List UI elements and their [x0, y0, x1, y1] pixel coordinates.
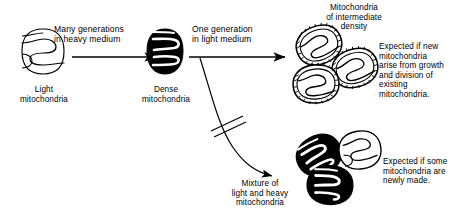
label-light-mitochondria: Light mitochondria	[10, 85, 78, 104]
curved-arrow-interrupted-icon	[200, 58, 272, 176]
label-intermediate-density: Mitochondria of intermediate density	[300, 3, 408, 32]
conclusion-newly-made: Expected if some mitochondria are newly …	[383, 157, 465, 186]
label-mixture-light-heavy: Mixture of light and heavy mitochondria	[212, 179, 308, 208]
arrow-label-one-generation: One generation in light medium	[192, 24, 288, 44]
arrow-label-many-generations: Many generations in heavy medium	[54, 24, 158, 44]
label-dense-mitochondria: Dense mitochondria	[132, 85, 200, 104]
conclusion-growth-division: Expected if new mitochondria arise from …	[379, 42, 465, 100]
diagram-canvas: Light mitochondria Dense mitochondria Ma…	[0, 0, 465, 212]
